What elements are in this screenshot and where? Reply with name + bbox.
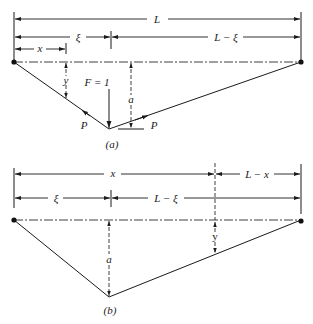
label-P-right: P xyxy=(150,119,158,131)
tension-arrow-left xyxy=(82,110,90,116)
label-xi: ξ xyxy=(54,192,59,205)
right-support-pin xyxy=(298,218,303,223)
sag-a: a xyxy=(118,63,144,129)
dimension-x: x xyxy=(15,167,214,179)
deflection-y: y xyxy=(212,222,218,253)
dimension-L-minus-xi: L − ξ xyxy=(112,192,300,205)
label-y: y xyxy=(63,74,69,86)
label-L-minus-x: L − x xyxy=(244,168,269,180)
deflection-y: y xyxy=(63,63,69,98)
label-x: x xyxy=(110,167,116,179)
panel-a: L ξ L − ξ x y xyxy=(11,12,303,151)
label-a: a xyxy=(106,253,112,265)
caption-a: (a) xyxy=(106,138,119,151)
caption-b: (b) xyxy=(104,304,117,317)
dimension-xi: ξ xyxy=(15,192,110,205)
label-xi: ξ xyxy=(76,31,81,44)
dimension-L-minus-x: L − x xyxy=(216,168,300,180)
dimension-x: x xyxy=(15,42,65,54)
sag-a: a xyxy=(106,221,112,296)
left-support-pin xyxy=(11,59,16,64)
tension-left: P xyxy=(80,110,90,131)
dimension-xi: ξ xyxy=(15,31,110,44)
label-L-minus-xi: L − ξ xyxy=(153,192,178,205)
string-deflection-diagram: L ξ L − ξ x y xyxy=(0,0,313,324)
label-P-left: P xyxy=(80,119,88,131)
label-F: F = 1 xyxy=(83,76,109,88)
tension-arrow-right xyxy=(135,116,148,121)
panel-b: x L − x ξ L − ξ a xyxy=(11,163,303,317)
dimension-L: L xyxy=(15,13,300,25)
right-support-pin xyxy=(298,59,303,64)
label-L-minus-xi: L − ξ xyxy=(213,31,238,44)
label-a: a xyxy=(128,93,134,105)
label-L: L xyxy=(153,13,160,25)
deflected-string xyxy=(14,220,301,297)
dimension-L-minus-xi: L − ξ xyxy=(112,31,300,44)
deflected-string xyxy=(14,62,301,129)
left-support-pin xyxy=(11,217,16,222)
label-x: x xyxy=(37,42,43,54)
label-y: y xyxy=(212,230,218,242)
